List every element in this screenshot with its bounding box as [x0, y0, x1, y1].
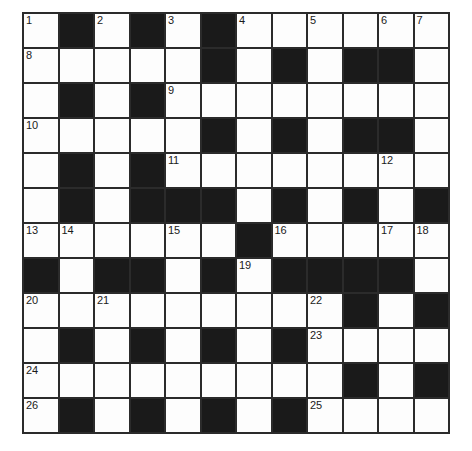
- crossword-cell[interactable]: [95, 49, 129, 82]
- crossword-cell[interactable]: 13: [24, 224, 58, 257]
- crossword-cell[interactable]: 24: [24, 364, 58, 397]
- crossword-cell[interactable]: [60, 49, 94, 82]
- crossword-cell[interactable]: 12: [379, 154, 413, 187]
- crossword-cell[interactable]: [237, 399, 271, 432]
- crossword-cell[interactable]: [344, 224, 378, 257]
- crossword-cell[interactable]: [237, 364, 271, 397]
- crossword-cell[interactable]: [273, 14, 307, 47]
- crossword-cell[interactable]: [237, 329, 271, 362]
- crossword-cell[interactable]: 19: [237, 259, 271, 292]
- crossword-cell[interactable]: [415, 259, 449, 292]
- crossword-cell[interactable]: [202, 224, 236, 257]
- crossword-cell[interactable]: [95, 399, 129, 432]
- crossword-cell[interactable]: [24, 154, 58, 187]
- crossword-cell[interactable]: [379, 329, 413, 362]
- crossword-cell[interactable]: [344, 154, 378, 187]
- crossword-cell[interactable]: [202, 84, 236, 117]
- crossword-cell[interactable]: [166, 329, 200, 362]
- crossword-cell[interactable]: [308, 364, 342, 397]
- crossword-cell[interactable]: [95, 154, 129, 187]
- crossword-cell[interactable]: [415, 84, 449, 117]
- crossword-cell[interactable]: 2: [95, 14, 129, 47]
- crossword-cell[interactable]: [344, 399, 378, 432]
- crossword-cell[interactable]: 11: [166, 154, 200, 187]
- crossword-cell[interactable]: [95, 119, 129, 152]
- crossword-cell[interactable]: 9: [166, 84, 200, 117]
- crossword-cell[interactable]: [308, 189, 342, 222]
- crossword-cell[interactable]: 4: [237, 14, 271, 47]
- crossword-cell[interactable]: [131, 364, 165, 397]
- crossword-cell[interactable]: [344, 14, 378, 47]
- crossword-cell[interactable]: [24, 189, 58, 222]
- crossword-cell[interactable]: 16: [273, 224, 307, 257]
- crossword-cell[interactable]: [379, 399, 413, 432]
- crossword-cell[interactable]: [166, 119, 200, 152]
- crossword-cell[interactable]: [24, 329, 58, 362]
- crossword-cell[interactable]: [415, 154, 449, 187]
- crossword-cell[interactable]: [131, 224, 165, 257]
- crossword-cell[interactable]: [95, 364, 129, 397]
- crossword-cell[interactable]: [202, 154, 236, 187]
- crossword-cell[interactable]: [166, 399, 200, 432]
- crossword-cell[interactable]: [60, 294, 94, 327]
- crossword-cell[interactable]: 3: [166, 14, 200, 47]
- crossword-cell[interactable]: 15: [166, 224, 200, 257]
- crossword-cell[interactable]: [415, 329, 449, 362]
- crossword-cell[interactable]: 17: [379, 224, 413, 257]
- crossword-cell[interactable]: [273, 294, 307, 327]
- crossword-cell[interactable]: [308, 154, 342, 187]
- crossword-cell[interactable]: [202, 364, 236, 397]
- crossword-cell[interactable]: [60, 364, 94, 397]
- crossword-cell[interactable]: [131, 119, 165, 152]
- crossword-cell[interactable]: 5: [308, 14, 342, 47]
- crossword-cell[interactable]: [237, 49, 271, 82]
- crossword-cell[interactable]: [273, 84, 307, 117]
- crossword-cell[interactable]: [273, 154, 307, 187]
- crossword-cell[interactable]: [344, 329, 378, 362]
- crossword-cell[interactable]: [95, 329, 129, 362]
- crossword-cell[interactable]: [60, 259, 94, 292]
- crossword-cell[interactable]: 26: [24, 399, 58, 432]
- crossword-cell[interactable]: [415, 399, 449, 432]
- crossword-cell[interactable]: [379, 294, 413, 327]
- crossword-cell[interactable]: [95, 224, 129, 257]
- crossword-cell[interactable]: 8: [24, 49, 58, 82]
- crossword-cell[interactable]: [308, 224, 342, 257]
- crossword-cell[interactable]: 14: [60, 224, 94, 257]
- crossword-cell[interactable]: [95, 84, 129, 117]
- crossword-cell[interactable]: [131, 49, 165, 82]
- crossword-cell[interactable]: [237, 154, 271, 187]
- crossword-cell[interactable]: [60, 119, 94, 152]
- crossword-cell[interactable]: 6: [379, 14, 413, 47]
- crossword-cell[interactable]: [95, 189, 129, 222]
- crossword-cell[interactable]: 21: [95, 294, 129, 327]
- crossword-cell[interactable]: 20: [24, 294, 58, 327]
- crossword-cell[interactable]: [308, 49, 342, 82]
- crossword-cell[interactable]: 23: [308, 329, 342, 362]
- crossword-cell[interactable]: [379, 84, 413, 117]
- crossword-cell[interactable]: 18: [415, 224, 449, 257]
- crossword-cell[interactable]: [237, 119, 271, 152]
- crossword-cell[interactable]: [273, 364, 307, 397]
- crossword-cell[interactable]: [237, 84, 271, 117]
- crossword-cell[interactable]: [415, 119, 449, 152]
- crossword-cell[interactable]: [166, 259, 200, 292]
- crossword-cell[interactable]: [202, 294, 236, 327]
- crossword-cell[interactable]: 22: [308, 294, 342, 327]
- crossword-cell[interactable]: [131, 294, 165, 327]
- crossword-cell[interactable]: [166, 364, 200, 397]
- crossword-cell[interactable]: 7: [415, 14, 449, 47]
- crossword-cell[interactable]: [308, 84, 342, 117]
- crossword-cell[interactable]: 1: [24, 14, 58, 47]
- crossword-cell[interactable]: [379, 364, 413, 397]
- crossword-cell[interactable]: 25: [308, 399, 342, 432]
- crossword-cell[interactable]: [166, 49, 200, 82]
- crossword-cell[interactable]: [379, 189, 413, 222]
- crossword-grid[interactable]: 1234567891011121314151617181920212223242…: [22, 12, 450, 434]
- crossword-cell[interactable]: [237, 189, 271, 222]
- crossword-cell[interactable]: [415, 49, 449, 82]
- crossword-cell[interactable]: [237, 294, 271, 327]
- crossword-cell[interactable]: 10: [24, 119, 58, 152]
- crossword-cell[interactable]: [344, 84, 378, 117]
- crossword-cell[interactable]: [166, 294, 200, 327]
